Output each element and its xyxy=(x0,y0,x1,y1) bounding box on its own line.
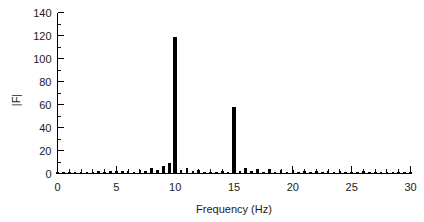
spectrum-bar xyxy=(392,173,394,174)
y-axis-title: |F| xyxy=(10,94,22,106)
y-tick-label: 140 xyxy=(33,7,51,19)
x-axis-title: Frequency (Hz) xyxy=(196,203,272,215)
fft-spectrum-figure: 020406080100120140 051015202530 |F| Freq… xyxy=(0,0,424,222)
spectrum-bar xyxy=(239,172,241,174)
spectrum-bar xyxy=(257,169,259,173)
spectrum-bar xyxy=(216,172,218,173)
spectrum-bar xyxy=(410,173,412,174)
spectrum-peak-bar xyxy=(174,38,177,174)
x-tick-label: 5 xyxy=(113,181,119,193)
x-tick-label: 20 xyxy=(287,181,299,193)
spectrum-bar xyxy=(57,173,59,174)
spectrum-bar xyxy=(192,172,194,174)
spectrum-bar xyxy=(304,171,306,173)
x-tick-label: 0 xyxy=(54,181,60,193)
y-tick-label: 20 xyxy=(39,145,51,157)
spectrum-bar xyxy=(374,172,376,173)
spectrum-bar xyxy=(92,172,94,173)
y-tick-label: 80 xyxy=(39,76,51,88)
spectrum-bar xyxy=(251,172,253,174)
x-tick-label: 25 xyxy=(346,181,358,193)
spectrum-bar xyxy=(351,172,353,173)
spectrum-bar xyxy=(168,163,170,173)
spectrum-bar xyxy=(186,168,188,173)
y-tick-label: 40 xyxy=(39,122,51,134)
y-tick-label: 120 xyxy=(33,30,51,42)
spectrum-bar xyxy=(398,173,400,174)
spectrum-bar xyxy=(316,171,318,173)
spectrum-bar xyxy=(357,173,359,174)
spectrum-bar xyxy=(145,172,147,174)
spectrum-bar xyxy=(286,172,288,173)
y-tick-label: 0 xyxy=(45,168,51,180)
spectrum-bar xyxy=(68,173,70,174)
y-tick-label: 60 xyxy=(39,99,51,111)
y-tick-label: 100 xyxy=(33,53,51,65)
spectrum-bar xyxy=(269,170,271,174)
spectrum-peak-bar xyxy=(233,108,236,174)
spectrum-bar xyxy=(163,167,165,174)
spectrum-bar xyxy=(221,172,223,174)
spectrum-bar xyxy=(104,172,106,173)
spectrum-bar xyxy=(204,172,206,174)
spectrum-bar xyxy=(139,171,141,174)
spectrum-bar xyxy=(363,171,365,173)
spectrum-bar xyxy=(198,170,200,173)
spectrum-bar xyxy=(245,168,247,173)
spectrum-bar xyxy=(227,172,229,173)
spectrum-bar xyxy=(380,173,382,174)
x-tick-label: 30 xyxy=(404,181,416,193)
spectrum-bar xyxy=(110,172,112,174)
x-tick-label: 15 xyxy=(228,181,240,193)
spectrum-bar xyxy=(386,173,388,174)
spectrum-bar xyxy=(292,171,294,174)
spectrum-bar xyxy=(310,172,312,173)
spectrum-bar xyxy=(274,172,276,173)
spectrum-bar xyxy=(339,172,341,174)
spectrum-bar xyxy=(404,173,406,174)
spectrum-bar xyxy=(63,173,65,174)
spectrum-bar xyxy=(369,173,371,174)
spectrum-bar xyxy=(133,172,135,173)
spectrum-bar xyxy=(80,173,82,174)
spectrum-bar xyxy=(280,171,282,174)
figure-background xyxy=(0,0,424,222)
spectrum-bar xyxy=(121,171,123,173)
spectrum-bar xyxy=(98,172,100,174)
spectrum-bar xyxy=(327,172,329,174)
spectrum-bar xyxy=(157,171,159,174)
spectrum-bar xyxy=(86,173,88,174)
spectrum-bar xyxy=(321,172,323,173)
spectrum-bar xyxy=(298,172,300,173)
spectrum-bar xyxy=(74,173,76,174)
spectrum-bar xyxy=(345,173,347,174)
spectrum-bar xyxy=(116,171,118,173)
spectrum-bar xyxy=(180,171,182,174)
spectrum-bar xyxy=(263,172,265,174)
spectrum-bar xyxy=(210,172,212,173)
spectrum-plot: 020406080100120140 051015202530 |F| Freq… xyxy=(0,0,424,222)
spectrum-bar xyxy=(127,172,129,174)
spectrum-bar xyxy=(151,169,153,174)
x-tick-label: 10 xyxy=(169,181,181,193)
spectrum-bar xyxy=(333,173,335,174)
